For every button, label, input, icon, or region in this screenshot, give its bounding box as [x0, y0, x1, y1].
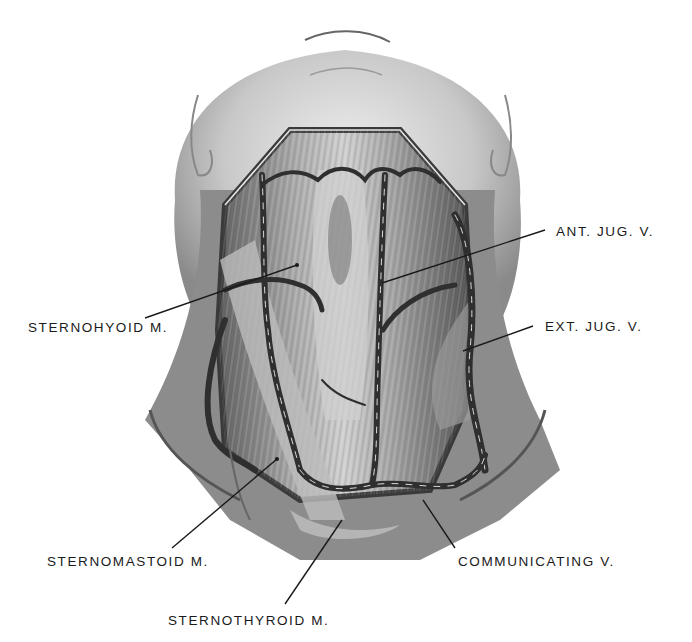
- label-ant-jug: ANT. JUG. V.: [556, 225, 654, 239]
- label-sternohyoid: STERNOHYOID M.: [28, 321, 168, 335]
- label-ext-jug: EXT. JUG. V.: [545, 320, 642, 334]
- dissection-window: [218, 130, 470, 520]
- anatomy-illustration: STERNOHYOID M. ANT. JUG. V. EXT. JUG. V.…: [0, 0, 692, 642]
- label-sternothyroid: STERNOTHYROID M.: [168, 614, 329, 628]
- label-sternomastoid: STERNOMASTOID M.: [47, 555, 209, 569]
- label-communicating: COMMUNICATING V.: [458, 555, 615, 569]
